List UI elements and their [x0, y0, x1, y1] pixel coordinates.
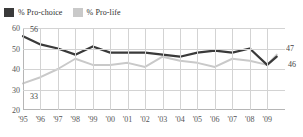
- y-tick-label: 20: [2, 107, 20, 115]
- gridline-vertical: [232, 28, 233, 110]
- x-tick-label: '06: [210, 115, 219, 125]
- gridline-horizontal: [23, 90, 285, 91]
- gridline-vertical: [75, 28, 76, 110]
- x-tick-label: '95: [18, 115, 27, 125]
- x-tick-label: '07: [228, 115, 237, 125]
- data-label-end-pro-life: 47: [286, 45, 294, 53]
- x-tick-label: '05: [193, 115, 202, 125]
- x-tick-label: '00: [105, 115, 114, 125]
- line-chart: % Pro-choice % Pro-life 60 50 40 30 20: [0, 0, 303, 137]
- legend-label-pro-choice: % Pro-choice: [18, 8, 63, 17]
- gridline-vertical: [163, 28, 164, 110]
- x-tick-label: '99: [88, 115, 97, 125]
- y-tick-label: 50: [2, 46, 20, 54]
- chart-legend: % Pro-choice % Pro-life: [4, 6, 121, 18]
- gridline-vertical: [197, 28, 198, 110]
- gridline-vertical: [58, 28, 59, 110]
- y-tick-label: 30: [2, 87, 20, 95]
- data-label-start-pro-life: 33: [30, 93, 38, 101]
- gridline-vertical: [145, 28, 146, 110]
- gridline-vertical: [40, 28, 41, 110]
- legend-item-pro-life: % Pro-life: [73, 8, 121, 17]
- gridline-horizontal: [23, 69, 285, 70]
- plot-area: [23, 28, 285, 110]
- gridline-vertical: [215, 28, 216, 110]
- x-tick-label: '96: [36, 115, 45, 125]
- x-tick-label: '04: [175, 115, 184, 125]
- x-tick-label: '03: [158, 115, 167, 125]
- gridline-vertical: [128, 28, 129, 110]
- gridline-vertical: [250, 28, 251, 110]
- data-label-end-pro-choice: 46: [288, 61, 296, 69]
- legend-label-pro-life: % Pro-life: [87, 8, 121, 17]
- x-tick-label: '08: [245, 115, 254, 125]
- x-tick-label: '02: [140, 115, 149, 125]
- y-tick-label: 60: [2, 25, 20, 33]
- legend-item-pro-choice: % Pro-choice: [4, 8, 63, 17]
- data-label-start-pro-choice: 56: [30, 26, 38, 34]
- x-tick-label: '09: [262, 115, 271, 125]
- legend-swatch-light-icon: [73, 8, 83, 17]
- x-tick-label: '98: [71, 115, 80, 125]
- gridline-horizontal: [23, 49, 285, 50]
- gridline-vertical: [267, 28, 268, 110]
- gridline-vertical: [93, 28, 94, 110]
- gridline-horizontal: [23, 28, 285, 29]
- legend-swatch-dark-icon: [4, 8, 14, 17]
- x-tick-label: '97: [53, 115, 62, 125]
- x-tick-label: '01: [123, 115, 132, 125]
- gridline-vertical: [110, 28, 111, 110]
- x-axis: '95 '96 '97 '98 '99 '00 '01 '02 '03 '04 …: [23, 115, 285, 127]
- y-tick-label: 40: [2, 66, 20, 74]
- gridline-vertical: [180, 28, 181, 110]
